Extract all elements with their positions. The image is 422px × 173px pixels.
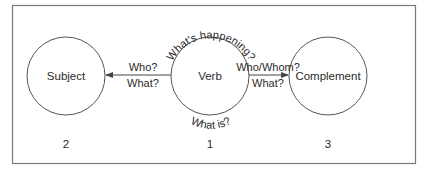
sentence-diagram: Subject Verb Complement Who? What? Who/W… bbox=[0, 0, 422, 173]
subject-number: 2 bbox=[63, 138, 69, 150]
verb-number: 1 bbox=[207, 138, 213, 150]
complement-label: Complement bbox=[295, 70, 361, 82]
subject-label: Subject bbox=[47, 70, 86, 82]
edge-complement-line1: Who/Whom? bbox=[236, 61, 300, 73]
edge-complement-line2: What? bbox=[252, 77, 284, 89]
edge-subject-line2: What? bbox=[127, 77, 159, 89]
verb-bottom-label: What is? bbox=[190, 114, 233, 131]
edge-subject-line1: Who? bbox=[129, 61, 158, 73]
verb-label: Verb bbox=[198, 70, 222, 82]
complement-number: 3 bbox=[325, 138, 331, 150]
